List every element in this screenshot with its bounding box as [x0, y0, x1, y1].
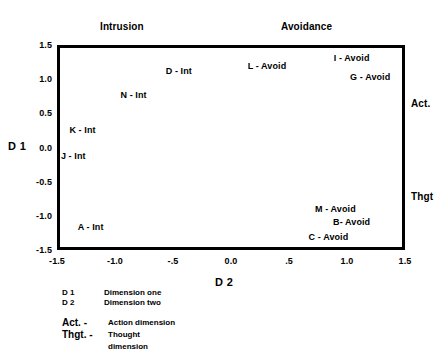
legend-key: Thgt. - [62, 329, 108, 341]
legend-key: Act. - [62, 317, 108, 329]
legend-row: Thgt. - Thought dimension [62, 329, 262, 353]
x-axis-tick-label: -.5 [156, 256, 190, 266]
legend-key: D 1 [62, 288, 104, 298]
y-axis-tick-label: 1.0 [26, 74, 52, 84]
x-axis-tick-label: 1.5 [388, 256, 422, 266]
column-header-intrusion: Intrusion [100, 21, 144, 32]
data-point-label: B- Avoid [333, 217, 370, 227]
y-axis-tick-label: -1.0 [26, 211, 52, 221]
data-point-label: M - Avoid [315, 204, 356, 214]
y-axis-tick-label: 0.0 [26, 143, 52, 153]
x-axis-tick-label: .5 [272, 256, 306, 266]
legend-description: Dimension two [104, 298, 161, 308]
data-point-label: J - Int [61, 151, 86, 161]
pole-label-action: Act. [411, 98, 430, 109]
scatter-plot-area: D - IntN - IntK - IntJ - IntA - IntL - A… [57, 45, 405, 250]
legend-row: D 1 Dimension one [62, 288, 262, 298]
x-axis-tick-label: -1.5 [40, 256, 74, 266]
data-point-label: I - Avoid [334, 53, 370, 63]
y-axis-tick-label: -0.5 [26, 177, 52, 187]
data-point-label: C - Avoid [309, 232, 349, 242]
legend-description: Dimension one [104, 288, 161, 298]
legend-row: Act. - Action dimension [62, 317, 262, 329]
x-axis-title: D 2 [215, 276, 233, 288]
legend-group-poles: Act. - Action dimension Thgt. - Thought … [62, 317, 262, 353]
data-point-label: L - Avoid [248, 61, 287, 71]
legend-group-dimensions: D 1 Dimension one D 2 Dimension two [62, 288, 262, 308]
data-point-label: D - Int [166, 66, 192, 76]
y-axis-tick-label: -1.5 [26, 245, 52, 255]
legend: D 1 Dimension one D 2 Dimension two Act.… [62, 288, 262, 353]
x-axis-tick-label: 0.0 [214, 256, 248, 266]
data-point-label: N - Int [120, 90, 146, 100]
legend-key: D 2 [62, 298, 104, 308]
legend-description: Action dimension [108, 317, 175, 329]
legend-row: D 2 Dimension two [62, 298, 262, 308]
y-axis-tick-label: 1.5 [26, 40, 52, 50]
data-point-label: A - Int [78, 222, 104, 232]
legend-description: Thought dimension [108, 329, 178, 353]
x-axis-tick-label: 1.0 [330, 256, 364, 266]
data-point-label: G - Avoid [350, 72, 390, 82]
data-point-label: K - Int [69, 125, 95, 135]
x-axis-tick-label: -1.0 [98, 256, 132, 266]
pole-label-thought: Thgt [411, 191, 433, 202]
y-axis-tick-label: 0.5 [26, 108, 52, 118]
y-axis-title: D 1 [8, 140, 26, 152]
column-header-avoidance: Avoidance [281, 21, 332, 32]
